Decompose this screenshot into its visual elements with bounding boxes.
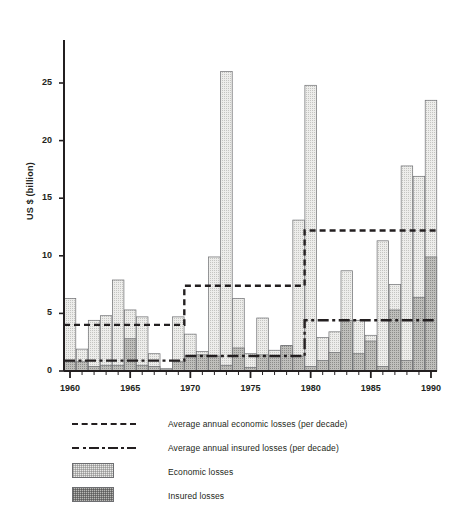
- chart-figure: US $ (billion) 0510152025 19601965197019…: [0, 0, 455, 530]
- bar-insured-1988: [401, 361, 413, 371]
- bar-insured-1985: [365, 341, 377, 371]
- legend-key-insured-swatch: [72, 487, 144, 505]
- bar-insured-1983: [341, 320, 353, 371]
- x-tick-label-1965: 1965: [110, 383, 150, 393]
- bar-insured-1971: [197, 355, 209, 371]
- bar-insured-1984: [353, 354, 365, 371]
- legend-item-economic-losses: Economic losses: [72, 460, 402, 484]
- bar-economic-1979: [293, 220, 305, 371]
- x-tick-label-1970: 1970: [170, 383, 210, 393]
- bar-insured-1970: [185, 356, 197, 371]
- bar-insured-1972: [209, 356, 221, 371]
- bar-economic-1962: [88, 320, 100, 371]
- legend-item-average-insured: Average annual insured losses (per decad…: [72, 436, 402, 460]
- dashed-line-icon: [72, 423, 136, 425]
- x-tick-label-1990: 1990: [411, 383, 451, 393]
- bar-insured-1981: [317, 361, 329, 371]
- bar-insured-1990: [425, 257, 437, 371]
- economic-swatch-icon: [72, 463, 114, 478]
- bar-insured-1965: [124, 339, 136, 371]
- x-tick-label-1960: 1960: [50, 383, 90, 393]
- y-tick-label-20: 20: [28, 135, 52, 145]
- y-tick-label-10: 10: [28, 250, 52, 260]
- bar-insured-1977: [269, 356, 281, 371]
- legend-label: Average annual insured losses (per decad…: [168, 443, 339, 453]
- chart-legend: Average annual economic losses (per deca…: [72, 412, 402, 508]
- legend-key-economic-swatch: [72, 463, 144, 481]
- x-tick-label-1975: 1975: [231, 383, 271, 393]
- bar-economic-1973: [221, 71, 233, 371]
- y-tick-label-15: 15: [28, 192, 52, 202]
- legend-key-dashdot-line: [72, 439, 144, 457]
- bar-insured-1960: [64, 362, 76, 371]
- bar-insured-1987: [389, 310, 401, 371]
- bar-insured-1969: [173, 362, 185, 371]
- bar-insured-1979: [293, 356, 305, 371]
- dashdot-line-icon: [72, 447, 136, 449]
- bar-insured-1989: [413, 297, 425, 371]
- bar-insured-1978: [281, 346, 293, 371]
- legend-item-average-economic: Average annual economic losses (per deca…: [72, 412, 402, 436]
- bar-insured-1982: [329, 353, 341, 371]
- legend-label: Economic losses: [168, 467, 233, 477]
- bar-economic-1986: [377, 241, 389, 371]
- legend-item-insured-losses: Insured losses: [72, 484, 402, 508]
- x-tick-label-1980: 1980: [291, 383, 331, 393]
- bar-insured-1961: [76, 362, 88, 371]
- bar-insured-1976: [257, 355, 269, 371]
- x-tick-label-1985: 1985: [351, 383, 391, 393]
- y-tick-label-5: 5: [28, 307, 52, 317]
- legend-label: Average annual economic losses (per deca…: [168, 419, 347, 429]
- bar-economic-1980: [305, 85, 317, 371]
- y-tick-label-0: 0: [28, 365, 52, 375]
- bars-layer: [64, 71, 437, 371]
- insured-swatch-icon: [72, 487, 114, 502]
- bar-insured-1974: [233, 348, 245, 371]
- legend-label: Insured losses: [168, 491, 224, 501]
- bar-economic-1988: [401, 166, 413, 371]
- bar-economic-1972: [209, 257, 221, 371]
- legend-key-dashed-line: [72, 415, 144, 433]
- y-tick-label-25: 25: [28, 77, 52, 87]
